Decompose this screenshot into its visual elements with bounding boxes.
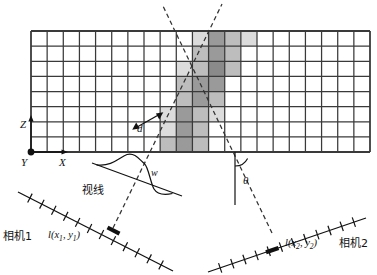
axis-label-z: Z (20, 119, 26, 130)
sensor-tick (135, 248, 140, 257)
camera2-pixel-label: l(x2, y2) (285, 238, 317, 251)
voxel-cell (192, 92, 208, 107)
coordinate-axes (28, 115, 68, 155)
sensor-tick (123, 242, 128, 251)
sight-line-label: 视线 (82, 185, 104, 196)
c1-sfx: ) (77, 229, 81, 240)
voxel-cell (160, 122, 176, 137)
axis-label-y: Y (21, 157, 27, 168)
origin-dot (28, 149, 35, 156)
camera1-pixel-label: l(x1, y1) (48, 230, 80, 243)
camera1-active-pixel (108, 228, 120, 234)
sensor-tick (51, 206, 56, 215)
diagram-canvas: Z Y X d w θ 视线 相机1 l(x1, y1) l(x2, y2) 相… (0, 0, 377, 275)
camera1-label: 相机1 (3, 231, 32, 242)
voxel-cell (176, 137, 192, 152)
voxel-cell (225, 46, 241, 61)
voxel-cell (209, 61, 225, 76)
voxel-cell (176, 122, 192, 137)
sensor-tick (28, 194, 33, 203)
voxel-cell (192, 122, 208, 137)
sensor-tick (99, 230, 104, 239)
voxel-cell (192, 107, 208, 122)
voxel-cell (176, 76, 192, 91)
sensor-tick (63, 212, 68, 221)
voxel-cell (176, 107, 192, 122)
voxel-cell (209, 46, 225, 61)
sensor-tick (147, 254, 152, 263)
voxel-cell (241, 31, 257, 46)
voxel-cell (209, 92, 225, 107)
sensor-tick (159, 260, 164, 269)
width-label-w: w (151, 168, 158, 178)
camera2-label: 相机2 (339, 238, 368, 249)
camera1-sensor-line (18, 192, 173, 271)
sensor-tick (40, 200, 45, 209)
voxel-cell (209, 31, 225, 46)
voxel-cell (192, 61, 208, 76)
sensor-tick (87, 224, 92, 233)
sensor-tick (111, 236, 116, 245)
voxel-cell (225, 31, 241, 46)
weight-profile-curve (92, 154, 182, 196)
voxel-cell (192, 31, 208, 46)
angle-label-theta: θ (243, 175, 248, 186)
axis-label-x: X (59, 157, 66, 168)
voxel-cell (209, 107, 225, 122)
sensor-tick (75, 218, 80, 227)
c2-sfx: ) (314, 237, 318, 248)
distance-label-d: d (137, 123, 143, 134)
voxel-cell (192, 137, 208, 152)
voxel-cell (209, 76, 225, 91)
voxel-cell (160, 137, 176, 152)
voxel-cell (225, 61, 241, 76)
